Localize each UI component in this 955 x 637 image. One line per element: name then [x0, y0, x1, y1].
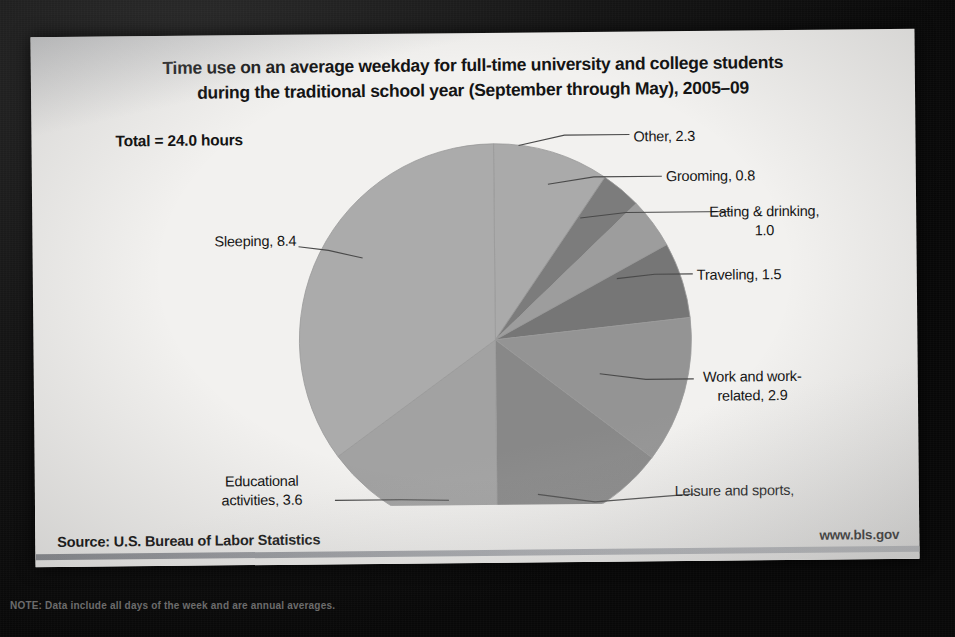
- leader-line-other: [518, 135, 629, 146]
- pie-label-educational-activities: Educational activities, 3.6: [187, 471, 337, 510]
- footer: Source: U.S. Bureau of Labor Statistics …: [35, 501, 920, 567]
- pie-label-eating-and-drinking: Eating & drinking, 1.0: [680, 201, 848, 240]
- chart-slide: Time use on an average weekday for full-…: [30, 29, 919, 567]
- pie-label-sleeping: Sleeping, 8.4: [148, 232, 296, 252]
- leader-line-sleeping: [298, 246, 362, 259]
- leader-line-traveling: [617, 274, 693, 279]
- caption-strip: NOTE: Data include all days of the week …: [10, 600, 710, 616]
- leader-line-education: [335, 499, 449, 501]
- source-note: Source: U.S. Bureau of Labor Statistics: [57, 531, 320, 550]
- pie-label-work-and-work-related: Work and work- related, 2.9: [670, 367, 835, 406]
- bls-url: www.bls.gov: [819, 527, 899, 543]
- pie-label-other: Other, 2.3: [633, 126, 783, 146]
- leader-line-grooming: [548, 176, 662, 184]
- pie-label-traveling: Traveling, 1.5: [697, 264, 857, 284]
- pie-label-grooming: Grooming, 0.8: [666, 166, 826, 186]
